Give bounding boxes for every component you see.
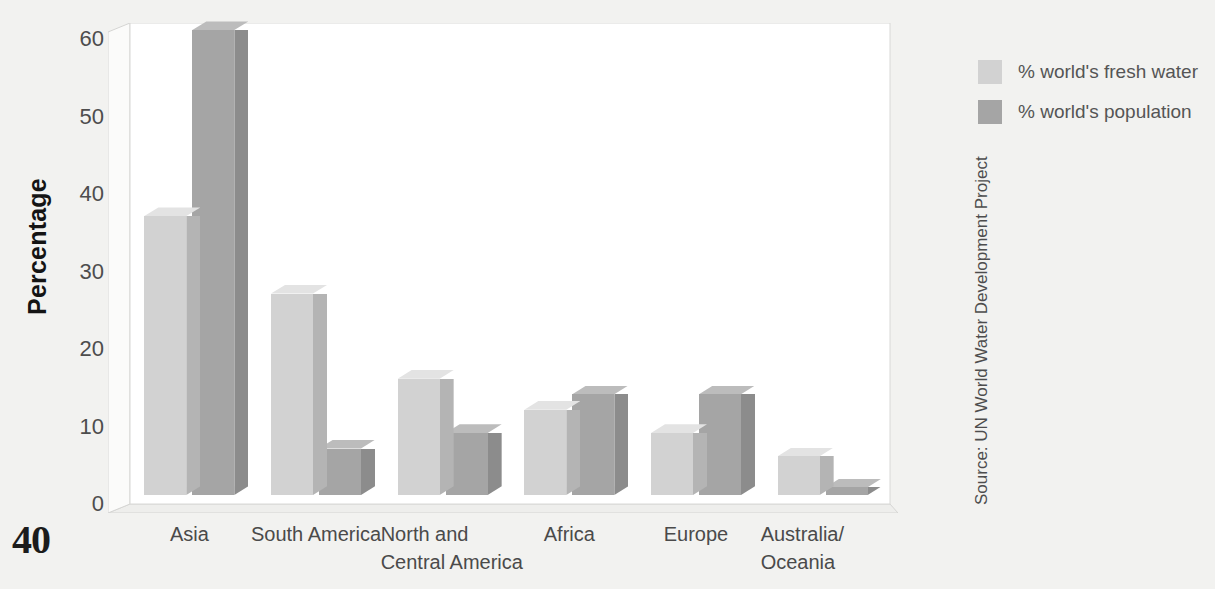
bar-top-face bbox=[699, 386, 755, 395]
bar bbox=[144, 216, 186, 495]
bar-front-face bbox=[826, 487, 868, 495]
bar-top-face bbox=[778, 448, 834, 457]
bar-side-face bbox=[234, 30, 248, 495]
bar-side-face bbox=[488, 433, 502, 495]
bar-front-face bbox=[144, 216, 186, 495]
bar-side-face bbox=[614, 394, 628, 495]
x-axis-label-line: Central America bbox=[381, 548, 548, 576]
x-axis-label-line: Europe bbox=[613, 520, 780, 548]
legend-item: % world's fresh water bbox=[978, 60, 1208, 84]
bar-top-face bbox=[192, 21, 248, 30]
page-number: 40 bbox=[12, 516, 50, 563]
legend-label: % world's population bbox=[1018, 101, 1192, 123]
x-axis-category-label: Europe bbox=[613, 520, 780, 548]
legend-swatch bbox=[978, 100, 1002, 124]
bar-front-face bbox=[651, 433, 693, 495]
bar-side-face bbox=[868, 487, 882, 495]
bar-top-face bbox=[572, 386, 628, 395]
legend-item: % world's population bbox=[978, 100, 1208, 124]
bars-container bbox=[108, 14, 898, 514]
y-axis-tick: 20 bbox=[52, 336, 104, 362]
y-axis-tick: 10 bbox=[52, 414, 104, 440]
bar-front-face bbox=[271, 294, 313, 495]
bar-front-face bbox=[778, 456, 820, 495]
bar-front-face bbox=[398, 379, 440, 495]
bar-side-face bbox=[741, 394, 755, 495]
chart-plot-area bbox=[108, 14, 898, 514]
bar-front-face bbox=[524, 410, 566, 495]
legend-label: % world's fresh water bbox=[1018, 61, 1198, 83]
bar bbox=[398, 379, 440, 495]
bar bbox=[778, 456, 820, 495]
x-axis-category-labels: AsiaSouth AmericaNorth andCentral Americ… bbox=[108, 520, 908, 586]
bar-top-face bbox=[271, 285, 327, 294]
y-axis-tick: 30 bbox=[52, 259, 104, 285]
bar-top-face bbox=[398, 370, 454, 379]
bar-side-face bbox=[693, 433, 707, 495]
y-axis-tick: 50 bbox=[52, 104, 104, 130]
bar-side-face bbox=[313, 294, 327, 495]
bar bbox=[651, 433, 693, 495]
x-axis-category-label: Australia/Oceania bbox=[761, 520, 928, 576]
legend-swatch bbox=[978, 60, 1002, 84]
bar bbox=[524, 410, 566, 495]
y-axis-tick-labels: 0102030405060 bbox=[52, 0, 104, 589]
y-axis-title: Percentage bbox=[23, 167, 52, 327]
bar-top-face bbox=[446, 424, 502, 433]
x-axis-category-label: South America bbox=[233, 520, 400, 548]
bar-top-face bbox=[826, 479, 882, 488]
source-note: Source: UN World Water Development Proje… bbox=[972, 175, 992, 505]
bar-side-face bbox=[566, 410, 580, 495]
bar bbox=[271, 294, 313, 495]
bar-side-face bbox=[440, 379, 454, 495]
bar-side-face bbox=[361, 449, 375, 495]
y-axis-tick: 0 bbox=[52, 491, 104, 517]
bar-side-face bbox=[186, 216, 200, 495]
y-axis-tick: 60 bbox=[52, 26, 104, 52]
chart-page: 40 Percentage 0102030405060 AsiaSouth Am… bbox=[0, 0, 1215, 589]
x-axis-label-line: South America bbox=[233, 520, 400, 548]
bar-top-face bbox=[319, 440, 375, 449]
chart-legend: % world's fresh water% world's populatio… bbox=[978, 60, 1208, 140]
bar bbox=[826, 487, 868, 495]
x-axis-label-line: Oceania bbox=[761, 548, 928, 576]
x-axis-label-line: Australia/ bbox=[761, 520, 928, 548]
y-axis-tick: 40 bbox=[52, 181, 104, 207]
